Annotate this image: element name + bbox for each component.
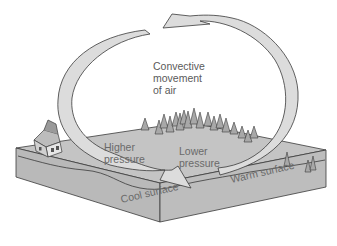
title-line-3: of air [153, 84, 205, 96]
house-icon [34, 120, 62, 157]
lower-pressure-line-2: pressure [179, 157, 220, 169]
higher-pressure-label: Higher pressure [104, 141, 145, 165]
title-line-2: movement [153, 72, 205, 84]
convection-diagram [0, 0, 337, 246]
higher-pressure-line-1: Higher [104, 141, 145, 153]
convective-movement-label: Convective movement of air [153, 60, 205, 96]
higher-pressure-line-2: pressure [104, 153, 145, 165]
lower-pressure-line-1: Lower [179, 145, 220, 157]
lower-pressure-label: Lower pressure [179, 145, 220, 169]
title-line-1: Convective [153, 60, 205, 72]
